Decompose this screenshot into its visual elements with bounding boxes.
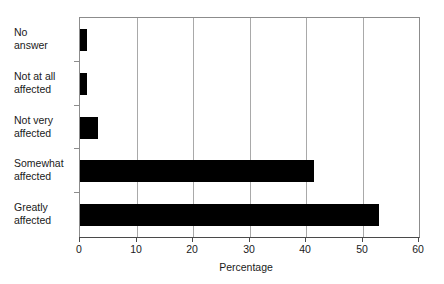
value-tick-label: 30	[234, 243, 264, 256]
x-axis-title: Percentage	[0, 261, 444, 273]
category-label: Greatly affected	[14, 201, 76, 226]
plot-area	[79, 17, 420, 238]
category-tick	[74, 192, 79, 193]
bar	[80, 117, 98, 139]
value-tick	[362, 237, 363, 242]
value-tick-label: 60	[403, 243, 433, 256]
value-tick	[249, 237, 250, 242]
bar	[80, 29, 87, 51]
category-label-text: Greatly affected	[14, 201, 76, 226]
category-label-text: Not at all affected	[14, 70, 76, 95]
category-label: Not very affected	[14, 114, 76, 139]
value-tick-label: 20	[177, 243, 207, 256]
category-label: Not at all affected	[14, 70, 76, 95]
x-axis-title-text: Percentage	[219, 261, 273, 273]
bar	[80, 204, 379, 226]
value-tick	[305, 237, 306, 242]
value-tick-label: 50	[347, 243, 377, 256]
bar	[80, 160, 314, 182]
bar	[80, 73, 87, 95]
value-tick-label: 10	[121, 243, 151, 256]
category-tick	[74, 61, 79, 62]
value-tick	[79, 237, 80, 242]
category-label-text: Not very affected	[14, 114, 76, 139]
category-label: Somewhat affected	[14, 157, 76, 182]
value-tick	[192, 237, 193, 242]
category-label-text: Somewhat affected	[14, 157, 76, 182]
category-tick	[74, 105, 79, 106]
value-tick-label: 40	[290, 243, 320, 256]
category-label: No answer	[14, 26, 76, 51]
value-tick	[136, 237, 137, 242]
category-label-text: No answer	[14, 26, 76, 51]
bar-chart: No answerNot at all affectedNot very aff…	[0, 0, 444, 284]
category-tick	[74, 148, 79, 149]
value-tick	[418, 237, 419, 242]
value-tick-label: 0	[64, 243, 94, 256]
